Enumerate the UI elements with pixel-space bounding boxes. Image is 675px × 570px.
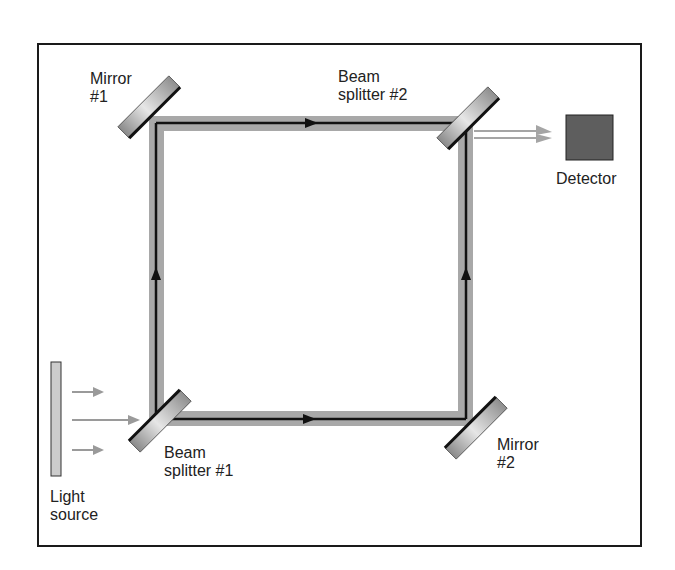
detector-label: Detector <box>556 170 616 188</box>
mirror-1-label: Mirror #1 <box>90 70 132 106</box>
beam-splitter-1-label: Beam splitter #1 <box>164 444 233 480</box>
mirror-2-label: Mirror #2 <box>497 436 539 472</box>
beam-lines <box>156 123 466 419</box>
beam-bands <box>149 116 473 426</box>
direction-arrows <box>151 118 471 424</box>
light-source-label: Light source <box>50 488 98 524</box>
output-beams <box>474 125 552 143</box>
light-source <box>51 362 61 476</box>
interferometer-diagram: Mirror #1 Beam splitter #2 Detector Beam… <box>0 0 675 570</box>
detector <box>566 115 613 160</box>
incoming-light-arrows <box>72 387 140 455</box>
beam-splitter-2-label: Beam splitter #2 <box>338 68 407 104</box>
